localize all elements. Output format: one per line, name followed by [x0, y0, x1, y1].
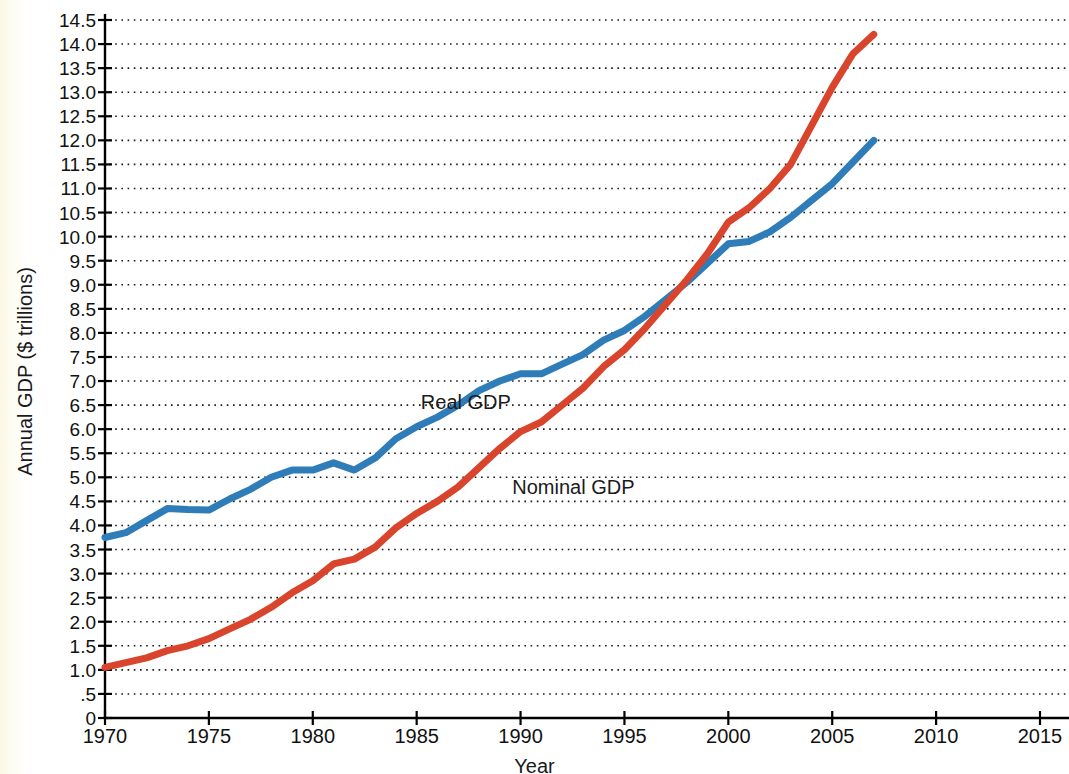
x-tick-label: 1995 [579, 725, 669, 748]
x-tick-label: 1980 [268, 725, 358, 748]
x-tick-label: 2000 [683, 725, 773, 748]
gridlines [109, 20, 1069, 694]
series-label-nominal-gdp: Nominal GDP [512, 476, 634, 499]
x-tick-label: 1985 [372, 725, 462, 748]
x-tick-label: 1975 [164, 725, 254, 748]
gdp-line-chart: Annual GDP ($ trillions) 0.51.01.52.02.5… [0, 0, 1069, 774]
series-line-nominal-gdp [105, 34, 874, 667]
series-label-real-gdp: Real GDP [421, 391, 511, 414]
axes [104, 14, 1069, 718]
series-lines [105, 34, 874, 667]
chart-canvas [0, 0, 1069, 774]
x-tick-label: 1970 [60, 725, 150, 748]
x-tick-label: 1990 [476, 725, 566, 748]
x-tick-label: 2010 [891, 725, 981, 748]
x-tick-label: 2005 [787, 725, 877, 748]
x-axis-title: Year [0, 755, 1069, 774]
x-tick-label: 2015 [995, 725, 1069, 748]
